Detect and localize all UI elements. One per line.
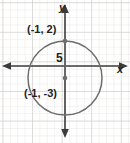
x-axis-label: x: [117, 64, 123, 75]
center-point-label: (-1, -3): [24, 88, 57, 99]
coordinate-plane-circle-diagram: (-1, 2) 5 (-1, -3) y x: [0, 0, 130, 143]
graph-canvas: [0, 0, 130, 143]
top-point-label: (-1, 2): [27, 24, 56, 35]
center-point-marker: [63, 76, 68, 81]
top-point-marker: [63, 39, 68, 44]
y-axis-label: y: [59, 2, 65, 13]
radius-label: 5: [56, 52, 63, 64]
